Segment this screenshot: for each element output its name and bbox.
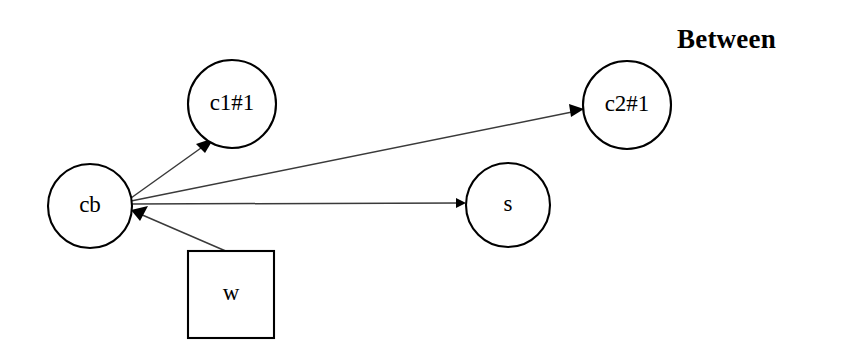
node-s-label: s <box>504 191 513 216</box>
graph-svg: cb c1#1 c2#1 s w <box>0 0 849 359</box>
edge-w-to-cb <box>131 206 228 252</box>
node-c2-label: c2#1 <box>605 91 650 116</box>
edge-cb-to-c2-arrowhead <box>569 104 584 117</box>
edge-cb-to-s-line <box>131 203 459 204</box>
edge-cb-to-s <box>131 198 466 208</box>
node-cb-label: cb <box>79 192 101 217</box>
edge-w-to-cb-line <box>140 214 228 252</box>
node-w[interactable]: w <box>188 251 274 338</box>
node-c1-label: c1#1 <box>210 90 255 115</box>
edge-cb-to-s-arrowhead <box>456 198 466 208</box>
node-w-label: w <box>223 280 240 305</box>
edge-cb-to-c1-line <box>131 143 208 198</box>
node-s[interactable]: s <box>466 163 550 247</box>
node-c2[interactable]: c2#1 <box>583 61 671 149</box>
node-c1[interactable]: c1#1 <box>188 60 276 148</box>
edge-cb-to-c1 <box>131 138 214 198</box>
edge-w-to-cb-arrowhead <box>131 206 148 221</box>
diagram-canvas: Between cb <box>0 0 849 359</box>
node-cb[interactable]: cb <box>48 164 132 248</box>
